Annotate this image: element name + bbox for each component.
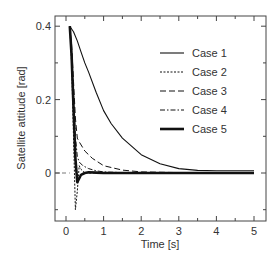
x-tick-label: 0 <box>63 225 69 237</box>
x-tick-label: 3 <box>176 225 182 237</box>
legend-label: Case 4 <box>192 104 227 116</box>
legend-label: Case 2 <box>192 66 227 78</box>
plot-frame <box>55 16 266 221</box>
legend-label: Case 1 <box>192 47 227 59</box>
legend-label: Case 5 <box>192 123 227 135</box>
legend-label: Case 3 <box>192 85 227 97</box>
legend: Case 1Case 2Case 3Case 4Case 5 <box>160 47 227 135</box>
x-axis-label: Time [s] <box>141 238 180 250</box>
y-axis-label: Satellite attitude [rad] <box>15 66 27 169</box>
x-tick-label: 4 <box>213 225 219 237</box>
y-tick-label: 0.2 <box>36 94 51 106</box>
x-tick-label: 1 <box>101 225 107 237</box>
y-tick-label: 0 <box>45 167 51 179</box>
y-tick-label: 0.4 <box>36 20 51 32</box>
chart-svg: 01234500.20.4 Case 1Case 2Case 3Case 4Ca… <box>0 0 278 264</box>
x-tick-label: 2 <box>138 225 144 237</box>
x-tick-label: 5 <box>251 225 257 237</box>
